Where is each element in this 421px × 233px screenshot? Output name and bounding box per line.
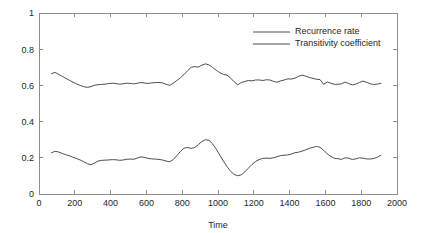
x-tick-label: 1200 xyxy=(244,198,264,208)
legend-label-0: Recurrence rate xyxy=(295,26,360,36)
x-tick-label: 200 xyxy=(67,198,82,208)
line-chart: 0200400600800100012001400160018002000 00… xyxy=(0,0,421,233)
y-tick-label: 0.2 xyxy=(21,153,34,163)
x-tick-label: 800 xyxy=(175,198,190,208)
legend-label-1: Transitivity coefficient xyxy=(295,38,381,48)
figure-container: 0200400600800100012001400160018002000 00… xyxy=(0,0,421,233)
x-tick-label: 1400 xyxy=(280,198,300,208)
x-tick-label: 1600 xyxy=(315,198,335,208)
x-tick-label: 1000 xyxy=(208,198,228,208)
y-tick-label: 0.8 xyxy=(21,45,34,55)
x-axis-title: Time xyxy=(208,220,228,230)
x-tick-label: 600 xyxy=(139,198,154,208)
y-axis-tick-labels: 00.20.40.60.81 xyxy=(21,8,34,199)
x-tick-label: 400 xyxy=(103,198,118,208)
y-tick-label: 0.6 xyxy=(21,81,34,91)
x-tick-label: 0 xyxy=(36,198,41,208)
y-tick-label: 1 xyxy=(29,8,34,18)
y-tick-label: 0.4 xyxy=(21,117,34,127)
x-tick-label: 2000 xyxy=(387,198,407,208)
x-axis-tick-labels: 0200400600800100012001400160018002000 xyxy=(36,198,407,208)
y-tick-label: 0 xyxy=(29,189,34,199)
x-tick-label: 1800 xyxy=(351,198,371,208)
